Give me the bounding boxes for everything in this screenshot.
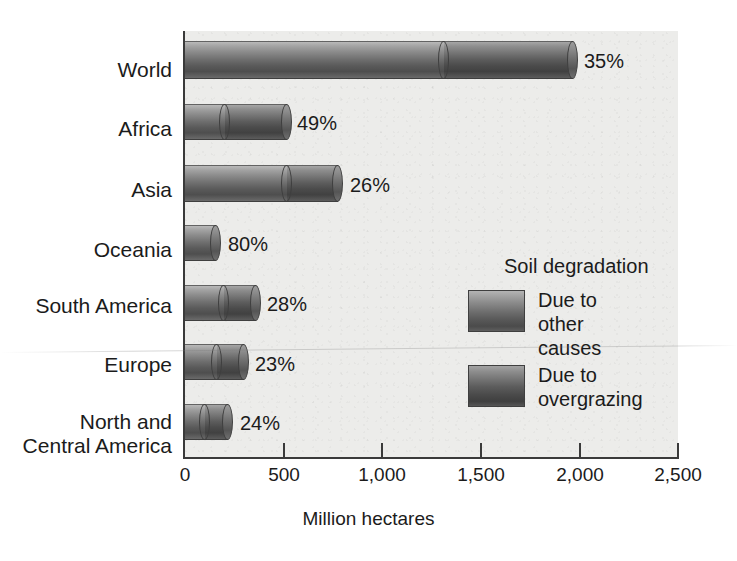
data-label-north-and-central-america: 24% bbox=[240, 412, 280, 434]
x-axis-line bbox=[183, 457, 679, 459]
legend-label-other-causes: Due to other causes bbox=[538, 288, 601, 360]
category-label-europe: Europe bbox=[104, 353, 172, 377]
category-label-africa: Africa bbox=[118, 117, 172, 141]
bar-row-africa bbox=[185, 104, 287, 140]
x-axis-title: Million hectares bbox=[0, 508, 737, 530]
category-label-north-and-central-america: North and Central America bbox=[23, 410, 172, 458]
data-label-europe: 23% bbox=[255, 353, 295, 375]
legend-title: Soil degradation bbox=[504, 255, 649, 278]
bar-end-cap bbox=[222, 404, 233, 440]
legend-swatch-overgrazing bbox=[468, 365, 525, 407]
x-tick-label-2500: 2,500 bbox=[654, 464, 702, 486]
category-label-south-america: South America bbox=[35, 294, 172, 318]
bar-segment-divider bbox=[218, 285, 229, 321]
bar-row-europe bbox=[185, 344, 244, 380]
bar-segment-overgrazing bbox=[185, 165, 287, 202]
bar-segment-other-causes bbox=[287, 165, 338, 202]
bar-segment-divider bbox=[199, 404, 210, 440]
category-label-oceania: Oceania bbox=[94, 238, 172, 262]
bar-row-asia bbox=[185, 165, 338, 202]
x-tick-label-2000: 2,000 bbox=[556, 464, 604, 486]
bar-segment-overgrazing bbox=[185, 41, 444, 79]
x-tick-1000 bbox=[381, 443, 383, 458]
data-label-oceania: 80% bbox=[228, 233, 268, 255]
bar-row-oceania bbox=[185, 225, 216, 261]
x-tick-500 bbox=[283, 443, 285, 458]
x-tick-label-0: 0 bbox=[180, 464, 191, 486]
bar-end-cap bbox=[567, 41, 578, 79]
bar-row-north-and-central-america bbox=[185, 404, 228, 440]
legend-swatch-other-causes bbox=[468, 290, 525, 332]
bar-segment-other-causes bbox=[444, 41, 573, 79]
data-label-africa: 49% bbox=[297, 112, 337, 134]
data-label-south-america: 28% bbox=[267, 293, 307, 315]
bar-segment-divider bbox=[438, 41, 449, 79]
x-tick-1500 bbox=[480, 443, 482, 458]
bar-segment-divider bbox=[211, 344, 222, 380]
bar-end-cap bbox=[250, 285, 261, 321]
soil-degradation-bar-chart: 0 500 1,000 1,500 2,000 2,500 Million he… bbox=[0, 0, 737, 561]
bar-row-south-america bbox=[185, 285, 256, 321]
bar-end-cap bbox=[238, 344, 249, 380]
data-label-world: 35% bbox=[584, 50, 624, 72]
x-tick-label-1000: 1,000 bbox=[358, 464, 406, 486]
x-tick-label-500: 500 bbox=[268, 464, 300, 486]
bar-row-world bbox=[185, 41, 573, 79]
bar-end-cap bbox=[281, 104, 292, 140]
category-label-world: World bbox=[118, 58, 172, 82]
bar-segment-other-causes bbox=[225, 104, 287, 140]
x-tick-2000 bbox=[579, 443, 581, 458]
legend-label-overgrazing: Due to overgrazing bbox=[538, 363, 643, 411]
x-tick-label-1500: 1,500 bbox=[457, 464, 505, 486]
bar-end-cap bbox=[332, 165, 343, 202]
bar-segment-divider bbox=[219, 104, 230, 140]
category-label-asia: Asia bbox=[131, 178, 172, 202]
data-label-asia: 26% bbox=[350, 174, 390, 196]
bar-segment-divider bbox=[281, 165, 292, 202]
bar-end-cap bbox=[210, 225, 221, 261]
x-tick-2500 bbox=[677, 443, 679, 458]
